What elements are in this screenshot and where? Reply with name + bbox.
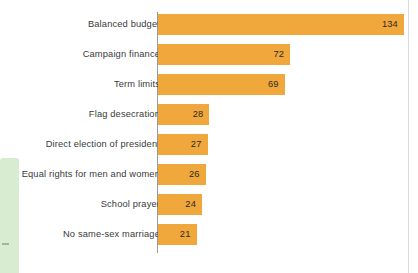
bar: 134 (158, 14, 404, 35)
bar-row: Equal rights for men and women26 (0, 164, 418, 194)
bar-row: Balanced budget134 (0, 14, 418, 44)
bar-value-label: 28 (193, 104, 204, 125)
bar-value-label: 72 (273, 44, 284, 65)
category-label: Flag desecration (89, 104, 160, 125)
bar-row: Term limits69 (0, 74, 418, 104)
bar-container: 26 (158, 164, 206, 185)
bar-container: 69 (158, 74, 285, 95)
bar: 24 (158, 194, 202, 215)
bar-value-label: 24 (185, 194, 196, 215)
bar-row: Direct election of president27 (0, 134, 418, 164)
category-label: School prayer (101, 194, 160, 215)
bar-row: Campaign finance72 (0, 44, 418, 74)
bar-rows: Balanced budget134Campaign finance72Term… (0, 14, 418, 254)
bar: 72 (158, 44, 290, 65)
bar-container: 21 (158, 224, 197, 245)
bar-value-label: 21 (180, 224, 191, 245)
plot-area: Balanced budget134Campaign finance72Term… (0, 0, 418, 273)
bar-container: 28 (158, 104, 209, 125)
bar-value-label: 69 (268, 74, 279, 95)
bar-value-label: 27 (191, 134, 202, 155)
bar-container: 27 (158, 134, 208, 155)
category-label: Equal rights for men and women (22, 164, 160, 185)
bar: 21 (158, 224, 197, 245)
bar-value-label: 26 (189, 164, 200, 185)
bar-row: No same-sex marriage21 (0, 224, 418, 254)
category-label: Balanced budget (88, 14, 160, 35)
bar: 69 (158, 74, 285, 95)
bar: 26 (158, 164, 206, 185)
category-label: Campaign finance (83, 44, 160, 65)
bar-container: 72 (158, 44, 290, 65)
bar-row: Flag desecration28 (0, 104, 418, 134)
bar-value-label: 134 (382, 14, 398, 35)
category-label: Term limits (114, 74, 160, 95)
category-label: No same-sex marriage (63, 224, 160, 245)
category-label: Direct election of president (46, 134, 160, 155)
bar-row: School prayer24 (0, 194, 418, 224)
bar: 28 (158, 104, 209, 125)
bar: 27 (158, 134, 208, 155)
bar-container: 134 (158, 14, 404, 35)
bar-container: 24 (158, 194, 202, 215)
bar-chart-figure: Balanced budget134Campaign finance72Term… (0, 0, 418, 273)
